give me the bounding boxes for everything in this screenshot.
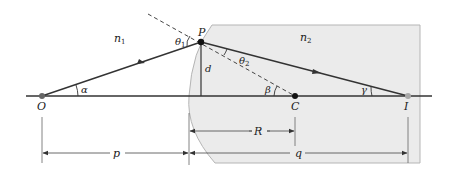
label-O: O: [37, 100, 46, 113]
point-I-marker: [405, 93, 411, 99]
label-alpha: α: [81, 84, 88, 95]
label-d: d: [205, 63, 211, 74]
label-R: R: [253, 125, 262, 138]
label-q: q: [295, 147, 302, 160]
label-gamma: γ: [361, 84, 367, 95]
point-P-marker: [198, 39, 204, 45]
refraction-diagram: O P C I n1 n2 α β γ θ1 θ2 d R p q: [0, 0, 453, 175]
medium-n2-region: [189, 25, 420, 163]
label-beta: β: [264, 84, 271, 95]
incident-ray: [42, 42, 201, 96]
label-I: I: [403, 100, 409, 113]
point-C-marker: [292, 93, 298, 99]
label-P: P: [197, 26, 206, 39]
label-n1: n1: [114, 32, 126, 46]
label-C: C: [291, 100, 300, 113]
label-p: p: [113, 147, 120, 160]
alpha-arc: [76, 85, 78, 96]
label-theta1: θ1: [175, 36, 186, 49]
point-O-marker: [39, 93, 45, 99]
